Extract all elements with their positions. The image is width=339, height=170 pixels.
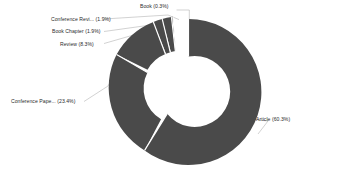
slice-label-article: Article (60.3%) bbox=[256, 117, 290, 122]
donut-chart-graphic bbox=[0, 0, 339, 170]
slice-label-conference-review: Conference Revi... (1.9%) bbox=[51, 17, 111, 22]
slice-label-book-chapter: Book Chapter (1.9%) bbox=[52, 29, 101, 34]
slice-label-conference-paper: Conference Pape... (23.4%) bbox=[11, 99, 75, 104]
donut-slices bbox=[109, 17, 262, 165]
slice-label-book: Book (0.3%) bbox=[140, 4, 169, 9]
donut-chart: Book (0.3%) Conference Revi... (1.9%) Bo… bbox=[0, 0, 339, 170]
slice-label-review: Review (8.3%) bbox=[60, 42, 94, 47]
leader-line-book bbox=[177, 10, 190, 19]
